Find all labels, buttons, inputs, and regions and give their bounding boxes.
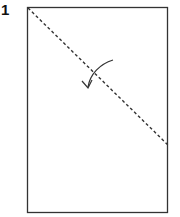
fold-arrow-icon <box>82 60 113 88</box>
paper-sheet <box>28 8 168 213</box>
origami-diagram <box>0 0 180 217</box>
valley-fold-line <box>28 8 168 145</box>
